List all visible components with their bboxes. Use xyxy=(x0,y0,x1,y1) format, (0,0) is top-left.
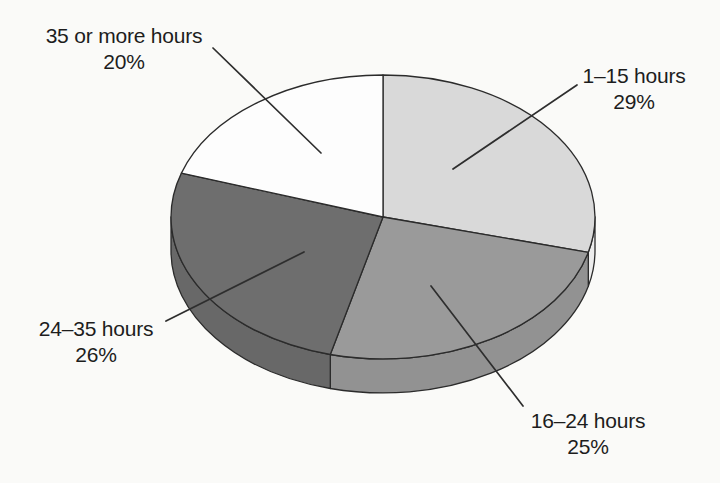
slice-label-pct: 26% xyxy=(16,342,176,368)
slice-label-pct: 25% xyxy=(508,434,668,460)
slice-label-text: 16–24 hours xyxy=(508,408,668,434)
slice-label-pct: 29% xyxy=(554,89,714,115)
slice-label-1-15-hours: 1–15 hours 29% xyxy=(554,63,714,115)
pie-chart-figure: 1–15 hours 29% 16–24 hours 25% 24–35 hou… xyxy=(0,0,720,483)
slice-label-35-or-more-hours: 35 or more hours 20% xyxy=(24,23,224,75)
slice-label-text: 24–35 hours xyxy=(16,316,176,342)
slice-label-pct: 20% xyxy=(24,49,224,75)
slice-label-16-24-hours: 16–24 hours 25% xyxy=(508,408,668,460)
slice-label-text: 35 or more hours xyxy=(24,23,224,49)
slice-label-24-35-hours: 24–35 hours 26% xyxy=(16,316,176,368)
slice-label-text: 1–15 hours xyxy=(554,63,714,89)
